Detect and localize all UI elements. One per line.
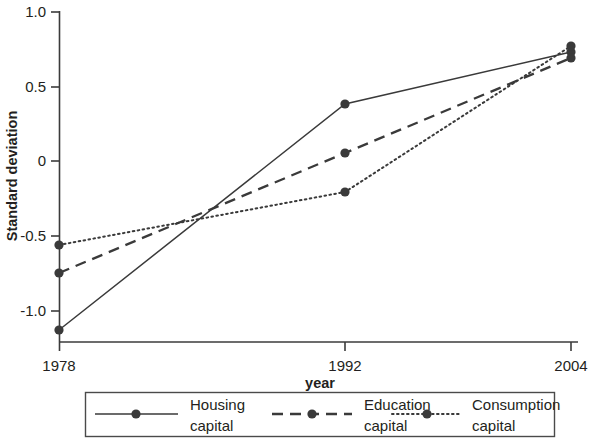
x-axis-title: year	[305, 375, 335, 391]
data-point-education-1992	[340, 148, 349, 157]
data-point-education-1978	[54, 268, 63, 277]
legend-swatch-marker	[307, 409, 316, 418]
x-axis-ticks	[60, 342, 572, 351]
legend-swatch-marker	[422, 409, 431, 418]
legend-label-housing-line1: Housing	[190, 396, 245, 413]
legend-label-education-line2: capital	[364, 417, 407, 434]
legend-swatch-marker	[131, 409, 140, 418]
x-tick-label-1: 1978	[42, 357, 75, 374]
series-line-education	[59, 58, 571, 273]
series-housing-capital	[54, 47, 575, 334]
legend-label-education-line1: Education	[364, 396, 431, 413]
y-tick-label-2: 0.5	[25, 78, 46, 95]
x-tick-label-3: 2004	[554, 357, 587, 374]
series-line-housing	[59, 52, 571, 330]
line-chart: 1.0 0.5 0 -0.5 -1.0 1978 1992 2004 Stand…	[0, 0, 590, 441]
data-point-education-2004	[566, 53, 575, 62]
chart-figure: 1.0 0.5 0 -0.5 -1.0 1978 1992 2004 Stand…	[0, 0, 590, 441]
series-education-capital	[54, 53, 575, 277]
series-line-consumption	[59, 46, 571, 245]
series-consumption-capital	[54, 41, 575, 249]
y-axis-ticks	[51, 12, 59, 311]
y-tick-label-4: -0.5	[20, 227, 46, 244]
y-axis-title: Standard deviation	[4, 111, 20, 242]
chart-legend: Housing capital Education capital Consum…	[86, 393, 561, 437]
data-point-housing-1992	[340, 99, 349, 108]
x-tick-label-2: 1992	[328, 357, 361, 374]
y-tick-label-3: 0	[38, 152, 46, 169]
data-point-consumption-1978	[54, 240, 63, 249]
legend-label-consumption-line1: Consumption	[472, 396, 560, 413]
legend-label-consumption-line2: capital	[472, 417, 515, 434]
y-tick-label-1: 1.0	[25, 3, 46, 20]
data-point-housing-1978	[54, 325, 63, 334]
legend-label-housing-line2: capital	[190, 417, 233, 434]
y-tick-label-5: -1.0	[20, 302, 46, 319]
data-point-consumption-2004	[566, 41, 575, 50]
data-point-consumption-1992	[340, 187, 349, 196]
